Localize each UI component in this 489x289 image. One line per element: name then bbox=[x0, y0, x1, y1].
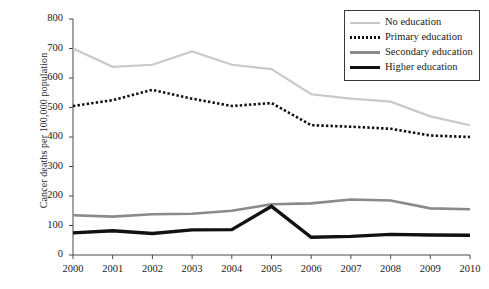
x-tick-label: 2004 bbox=[212, 263, 252, 274]
x-tick-label: 2000 bbox=[53, 263, 93, 274]
x-tick-label: 2002 bbox=[132, 263, 172, 274]
x-tick-label: 2001 bbox=[93, 263, 133, 274]
legend-swatch-secondary-education bbox=[350, 47, 380, 59]
y-tick-label: 300 bbox=[29, 160, 63, 171]
legend-label-higher-education: Higher education bbox=[385, 62, 458, 73]
legend-label-no-education: No education bbox=[385, 17, 441, 28]
legend-item-primary-education[interactable]: Primary education bbox=[350, 30, 474, 45]
x-tick-label: 2005 bbox=[252, 263, 292, 274]
series-line bbox=[73, 90, 470, 137]
y-tick-label: 400 bbox=[29, 130, 63, 141]
legend: No education Primary education Secondary… bbox=[344, 10, 480, 81]
legend-label-secondary-education: Secondary education bbox=[385, 47, 473, 58]
y-tick-label: 700 bbox=[29, 42, 63, 53]
legend-item-secondary-education[interactable]: Secondary education bbox=[350, 45, 474, 60]
legend-item-no-education[interactable]: No education bbox=[350, 15, 474, 30]
legend-label-primary-education: Primary education bbox=[385, 32, 462, 43]
y-tick-label: 800 bbox=[29, 12, 63, 23]
legend-swatch-no-education bbox=[350, 17, 380, 29]
x-tick-label: 2010 bbox=[450, 263, 489, 274]
series-line bbox=[73, 206, 470, 237]
line-chart: Cancer deaths per 100,000 population 010… bbox=[0, 0, 489, 289]
legend-swatch-higher-education bbox=[350, 62, 380, 74]
y-tick-label: 600 bbox=[29, 71, 63, 82]
x-tick-label: 2009 bbox=[410, 263, 450, 274]
y-tick-label: 0 bbox=[29, 248, 63, 259]
x-tick-label: 2008 bbox=[371, 263, 411, 274]
y-tick-label: 100 bbox=[29, 219, 63, 230]
x-axis-ticks bbox=[73, 255, 470, 259]
x-tick-label: 2006 bbox=[291, 263, 331, 274]
x-tick-label: 2003 bbox=[172, 263, 212, 274]
legend-item-higher-education[interactable]: Higher education bbox=[350, 60, 474, 75]
y-axis-ticks bbox=[69, 19, 73, 255]
legend-swatch-primary-education bbox=[350, 32, 380, 44]
y-tick-label: 500 bbox=[29, 101, 63, 112]
y-tick-label: 200 bbox=[29, 189, 63, 200]
x-tick-label: 2007 bbox=[331, 263, 371, 274]
